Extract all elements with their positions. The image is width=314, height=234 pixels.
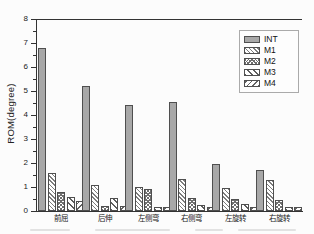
legend-item-M3: M3 bbox=[244, 67, 294, 78]
bar-M2 bbox=[188, 198, 196, 211]
cropped-caption-remnant bbox=[195, 229, 223, 231]
y-axis-line bbox=[36, 19, 37, 212]
bar-INT bbox=[212, 164, 220, 211]
y-minor-tick bbox=[33, 175, 36, 176]
legend-swatch-M2 bbox=[244, 58, 260, 65]
category-label: 后伸 bbox=[83, 214, 127, 223]
y-major-tick bbox=[31, 91, 36, 92]
y-minor-tick bbox=[33, 127, 36, 128]
legend-item-M1: M1 bbox=[244, 45, 294, 56]
bar-M3 bbox=[241, 204, 249, 211]
bar-M1 bbox=[135, 187, 143, 211]
bar-M2 bbox=[101, 206, 109, 211]
y-tick-label: 3 bbox=[14, 135, 28, 143]
legend-swatch-M4 bbox=[244, 80, 260, 87]
top-frame-line bbox=[36, 19, 302, 20]
y-major-tick bbox=[31, 67, 36, 68]
y-tick-label: 7 bbox=[14, 39, 28, 47]
legend-item-M2: M2 bbox=[244, 56, 294, 67]
y-minor-tick bbox=[33, 31, 36, 32]
y-major-tick bbox=[31, 19, 36, 20]
y-tick-label: 0 bbox=[14, 207, 28, 215]
y-minor-tick bbox=[33, 199, 36, 200]
legend-item-M4: M4 bbox=[244, 78, 294, 89]
y-tick-label: 4 bbox=[14, 111, 28, 119]
y-tick-label: 6 bbox=[14, 63, 28, 71]
bar-M2 bbox=[231, 199, 239, 211]
x-axis-line bbox=[36, 211, 303, 212]
bar-M3 bbox=[154, 207, 162, 211]
bar-INT bbox=[38, 48, 46, 211]
bar-INT bbox=[125, 105, 133, 211]
cropped-caption-remnant bbox=[95, 229, 170, 231]
legend-box: INTM1M2M3M4 bbox=[239, 30, 299, 93]
bar-M2 bbox=[57, 192, 65, 211]
bar-M3 bbox=[110, 198, 118, 211]
category-label: 左旋转 bbox=[213, 214, 257, 223]
cropped-caption-remnant bbox=[238, 229, 296, 231]
legend-label-M1: M1 bbox=[264, 46, 276, 55]
y-major-tick bbox=[31, 43, 36, 44]
legend-label-M4: M4 bbox=[264, 79, 276, 88]
bar-M3 bbox=[67, 197, 75, 211]
legend-swatch-M3 bbox=[244, 69, 260, 76]
y-minor-tick bbox=[33, 79, 36, 80]
bar-M2 bbox=[275, 200, 283, 211]
bar-INT bbox=[256, 170, 264, 211]
y-tick-label: 2 bbox=[14, 159, 28, 167]
y-minor-tick bbox=[33, 55, 36, 56]
bar-M3 bbox=[197, 205, 205, 211]
bar-M4 bbox=[294, 207, 302, 211]
category-label: 右旋转 bbox=[257, 214, 301, 223]
chart-canvas: ROM(degree) 012345678 前屈后伸左侧弯右侧弯左旋转右旋转 I… bbox=[0, 0, 314, 234]
bar-M2 bbox=[144, 189, 152, 211]
legend-swatch-INT bbox=[244, 36, 260, 43]
legend-swatch-M1 bbox=[244, 47, 260, 54]
y-minor-tick bbox=[33, 151, 36, 152]
y-major-tick bbox=[31, 139, 36, 140]
bar-M1 bbox=[48, 173, 56, 211]
legend-label-M2: M2 bbox=[264, 57, 276, 66]
legend-item-INT: INT bbox=[244, 34, 294, 45]
legend-label-INT: INT bbox=[264, 35, 278, 44]
category-label: 前屈 bbox=[39, 214, 83, 223]
bar-M3 bbox=[285, 207, 293, 211]
legend-label-M3: M3 bbox=[264, 68, 276, 77]
category-label: 右侧弯 bbox=[170, 214, 214, 223]
y-major-tick bbox=[31, 115, 36, 116]
y-minor-tick bbox=[33, 103, 36, 104]
bar-INT bbox=[82, 86, 90, 211]
category-label: 左侧弯 bbox=[126, 214, 170, 223]
y-tick-label: 8 bbox=[14, 15, 28, 23]
bar-M1 bbox=[91, 185, 99, 211]
cropped-caption-remnant bbox=[30, 229, 70, 231]
bar-M1 bbox=[266, 180, 274, 211]
bar-INT bbox=[169, 102, 177, 211]
y-major-tick bbox=[31, 187, 36, 188]
y-tick-label: 1 bbox=[14, 183, 28, 191]
bar-M1 bbox=[178, 179, 186, 211]
y-major-tick bbox=[31, 163, 36, 164]
bar-M1 bbox=[222, 188, 230, 211]
y-tick-label: 5 bbox=[14, 87, 28, 95]
y-major-tick bbox=[31, 211, 36, 212]
